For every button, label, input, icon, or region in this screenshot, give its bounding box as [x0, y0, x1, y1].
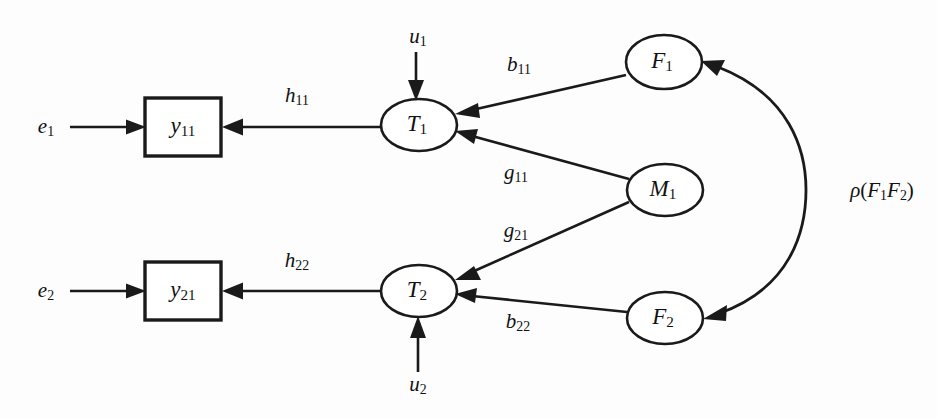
- arrowhead: [222, 283, 243, 300]
- edge-F1-F2-correlation: [701, 60, 806, 321]
- edge-F2-to-T2: [455, 288, 627, 312]
- residual-label-e2: e2: [38, 278, 54, 303]
- edge-label-h11: h11: [285, 83, 309, 108]
- arrowhead: [222, 119, 243, 136]
- edge-label-h22: h22: [285, 248, 309, 273]
- edge-M1-to-T2: [455, 202, 629, 280]
- arrowhead: [126, 284, 146, 299]
- edge-u2-to-T2: [410, 316, 426, 372]
- diagram-canvas: y11 y21 T1 T2 F1 M1 F2: [0, 0, 937, 418]
- node-true-score-T2: T2: [381, 265, 457, 317]
- arrowhead: [455, 266, 481, 280]
- node-true-score-T1: T1: [381, 99, 457, 151]
- disturbance-label-u2: u2: [409, 372, 427, 397]
- node-observed-y11: y11: [145, 98, 221, 156]
- arrowhead: [455, 288, 477, 303]
- edge-u1-to-T1: [408, 52, 424, 101]
- edge-label-b22: b22: [506, 309, 530, 334]
- edge-F1-to-T1: [455, 75, 626, 118]
- edge-label-g21: g21: [504, 218, 528, 243]
- path-diagram-figure: y11 y21 T1 T2 F1 M1 F2: [0, 0, 937, 418]
- arrowhead: [455, 103, 480, 118]
- arrowhead: [410, 316, 426, 338]
- arrowhead: [126, 120, 146, 135]
- arrowhead: [455, 129, 478, 144]
- arrowhead-bottom: [703, 305, 727, 321]
- node-factor-F2: F2: [627, 292, 703, 344]
- edge-T2-to-y21: [222, 283, 381, 300]
- edge-M1-to-T1: [455, 129, 629, 179]
- correlation-label-rho-F1-F2: ρ(F1F2): [849, 178, 914, 203]
- edge-e2-to-y21: [70, 284, 146, 299]
- edge-label-b11: b11: [507, 52, 531, 77]
- disturbance-label-u1: u1: [409, 24, 427, 49]
- edge-label-g11: g11: [504, 160, 528, 185]
- edge-T1-to-y11: [222, 119, 381, 136]
- node-factor-F1: F1: [626, 35, 702, 89]
- residual-label-e1: e1: [38, 114, 54, 139]
- node-observed-y21: y21: [145, 262, 221, 320]
- edge-e1-to-y11: [70, 120, 146, 135]
- node-method-M1: M1: [627, 164, 703, 216]
